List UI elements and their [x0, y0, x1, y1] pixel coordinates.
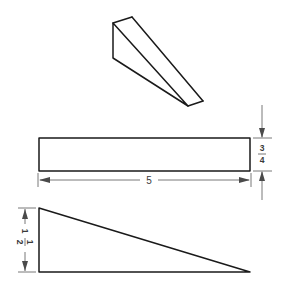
width-dimension: 5 [38, 173, 251, 187]
wedge-slope-edge [132, 17, 203, 101]
arrowhead-left-icon [39, 177, 50, 183]
fraction-numerator: 3 [260, 143, 265, 153]
fraction-denominator: 4 [260, 155, 265, 165]
wedge-top-edge [113, 17, 132, 23]
width-dimension-text: 5 [146, 175, 152, 186]
top-view-rectangle [39, 138, 250, 171]
technical-drawing: 5 3 4 1 1 [0, 0, 286, 294]
front-view: 1 1 2 [15, 208, 250, 272]
wedge-front-face [113, 23, 188, 106]
wedge-tip-edge [188, 101, 203, 106]
isometric-wedge [113, 17, 203, 106]
top-view: 5 3 4 [38, 105, 272, 200]
fraction-denominator: 2 [15, 240, 25, 245]
front-view-triangle [39, 208, 250, 272]
arrowhead-up-icon [22, 209, 28, 219]
height-dimension-top-view: 3 4 [253, 105, 272, 200]
arrowhead-up-icon [259, 171, 265, 181]
fraction-numerator: 1 [25, 240, 35, 245]
arrowhead-down-icon [259, 128, 265, 138]
height-dimension-front-view: 1 1 2 [15, 208, 36, 272]
arrowhead-right-icon [239, 177, 250, 183]
arrowhead-down-icon [22, 261, 28, 271]
mixed-number-whole: 1 [20, 229, 30, 234]
